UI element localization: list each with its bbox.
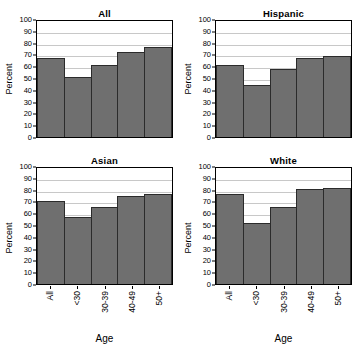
x-tick-mark	[284, 286, 285, 289]
panel-all: All Percent 0102030405060708090100	[0, 8, 179, 155]
bar	[144, 194, 172, 284]
y-tick-label: 20	[203, 111, 211, 119]
x-tick-mark	[105, 286, 106, 289]
bar	[37, 201, 65, 284]
y-tick-label: 50	[203, 222, 211, 230]
y-tick-label: 40	[24, 87, 32, 95]
x-tick-label: 40-49	[306, 291, 315, 313]
bar	[64, 77, 92, 137]
y-tick-label: 100	[19, 16, 32, 24]
y-tick-label: 90	[24, 28, 32, 36]
plot-area-hispanic	[215, 20, 352, 138]
y-tick-label: 100	[198, 16, 211, 24]
x-tick-label: 40-49	[127, 291, 136, 313]
bar	[216, 65, 244, 137]
x-tick: <30	[63, 286, 90, 332]
y-tick-label: 0	[28, 281, 32, 289]
x-tick: <30	[242, 286, 269, 332]
y-tick-label: 20	[24, 111, 32, 119]
x-tick: 30-39	[270, 286, 297, 332]
y-tick-label: 30	[203, 99, 211, 107]
panel-white: White Percent 0102030405060708090100 All…	[179, 155, 358, 347]
panel-hispanic: Hispanic Percent 0102030405060708090100	[179, 8, 358, 155]
bar	[117, 196, 145, 284]
y-tick-label: 0	[28, 134, 32, 142]
y-tick-label: 80	[203, 187, 211, 195]
y-tick-label: 50	[24, 75, 32, 83]
x-tick-mark	[311, 286, 312, 289]
bar-series-hispanic	[216, 21, 351, 137]
y-axis-ticks-asian: 0102030405060708090100	[0, 155, 36, 273]
x-tick-label: All	[45, 291, 54, 300]
x-tick-mark	[50, 286, 51, 289]
y-tick-label: 90	[203, 28, 211, 36]
plot-wrapper-asian	[36, 167, 173, 285]
y-tick-label: 90	[24, 175, 32, 183]
x-tick-label: 30-39	[279, 291, 288, 313]
x-tick-label: 30-39	[100, 291, 109, 313]
bar	[117, 52, 145, 137]
x-axis-label-asian: Age	[36, 333, 173, 344]
panel-title-white: White	[215, 155, 352, 166]
y-tick-label: 30	[203, 246, 211, 254]
x-tick: 40-49	[297, 286, 324, 332]
x-tick: 40-49	[118, 286, 145, 332]
plot-wrapper-all	[36, 20, 173, 138]
bar	[91, 207, 119, 284]
x-tick-label: 50+	[155, 291, 164, 305]
plot-area-all	[36, 20, 173, 138]
bar-series-asian	[37, 168, 172, 284]
bar	[270, 69, 298, 137]
x-tick: 30-39	[91, 286, 118, 332]
bar-series-white	[216, 168, 351, 284]
y-axis-ticks-white: 0102030405060708090100	[179, 155, 215, 273]
y-tick-label: 30	[24, 246, 32, 254]
bar	[296, 189, 324, 284]
x-axis-label-white: Age	[215, 333, 352, 344]
y-tick-label: 10	[24, 122, 32, 130]
plot-wrapper-white	[215, 167, 352, 285]
y-tick-label: 10	[24, 269, 32, 277]
y-tick-label: 90	[203, 175, 211, 183]
x-tick-label: <30	[73, 291, 82, 305]
y-tick-label: 40	[203, 87, 211, 95]
x-tick-label: All	[224, 291, 233, 300]
bar-series-all	[37, 21, 172, 137]
plot-area-asian	[36, 167, 173, 285]
y-tick-label: 80	[24, 40, 32, 48]
y-tick-label: 70	[24, 52, 32, 60]
plot-area-white	[215, 167, 352, 285]
y-axis-ticks-all: 0102030405060708090100	[0, 8, 36, 126]
y-tick-label: 60	[203, 210, 211, 218]
y-tick-label: 20	[24, 258, 32, 266]
y-tick-label: 0	[207, 134, 211, 142]
y-tick-label: 60	[24, 210, 32, 218]
y-tick-label: 20	[203, 258, 211, 266]
y-tick-label: 40	[203, 234, 211, 242]
y-tick-label: 30	[24, 99, 32, 107]
bar	[91, 65, 119, 137]
x-axis-ticks-asian: All<3030-3940-4950+	[36, 286, 173, 332]
y-tick-label: 70	[24, 199, 32, 207]
bar	[64, 217, 92, 284]
y-axis-ticks-hispanic: 0102030405060708090100	[179, 8, 215, 126]
y-tick-label: 100	[198, 163, 211, 171]
bar	[243, 85, 271, 138]
x-tick-mark	[256, 286, 257, 289]
y-tick-label: 70	[203, 199, 211, 207]
x-tick: All	[36, 286, 63, 332]
y-tick-label: 60	[203, 63, 211, 71]
panel-title-asian: Asian	[36, 155, 173, 166]
x-tick: All	[215, 286, 242, 332]
y-tick-label: 10	[203, 269, 211, 277]
y-tick-label: 0	[207, 281, 211, 289]
bar	[243, 223, 271, 284]
y-tick-label: 50	[203, 75, 211, 83]
x-tick: 50+	[325, 286, 352, 332]
bar	[216, 194, 244, 284]
y-tick-label: 80	[24, 187, 32, 195]
panel-title-all: All	[36, 8, 173, 19]
panel-title-hispanic: Hispanic	[215, 8, 352, 19]
panel-asian: Asian Percent 0102030405060708090100 All…	[0, 155, 179, 347]
x-tick-label: <30	[252, 291, 261, 305]
